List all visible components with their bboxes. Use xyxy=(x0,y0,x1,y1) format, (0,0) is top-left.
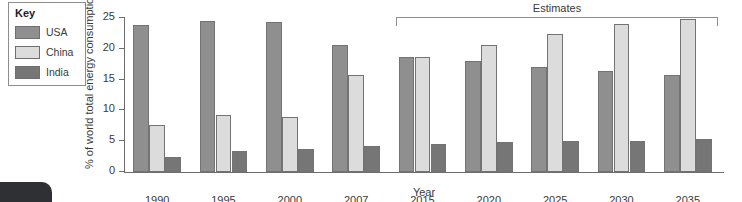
bar-usa-2025 xyxy=(531,67,547,172)
y-tick-label: 15 xyxy=(103,72,115,84)
bar-usa-2030 xyxy=(598,71,614,172)
y-tick-label: 0 xyxy=(109,164,115,176)
bar-group xyxy=(133,18,181,172)
legend-label-china: China xyxy=(46,46,73,58)
bar-usa-2015 xyxy=(399,57,415,172)
y-tick-label: 25 xyxy=(103,10,115,22)
bar-group xyxy=(465,18,513,172)
scan-artifact xyxy=(0,182,52,202)
bar-usa-1995 xyxy=(200,21,216,172)
plot-area: 0510152025199019952000200720152020202520… xyxy=(124,18,721,172)
y-tick-label: 20 xyxy=(103,41,115,53)
x-axis-title: Year xyxy=(124,186,724,198)
legend-label-india: India xyxy=(46,66,69,78)
bar-india-2000 xyxy=(298,149,314,172)
y-tick: 5 xyxy=(119,140,124,141)
bar-group xyxy=(399,18,447,172)
bar-group xyxy=(266,18,314,172)
y-tick-label: 5 xyxy=(109,133,115,145)
bar-india-2015 xyxy=(431,144,447,172)
y-tick-label: 10 xyxy=(103,102,115,114)
bar-usa-2035 xyxy=(664,75,680,172)
bar-china-1990 xyxy=(149,125,165,172)
bar-india-2035 xyxy=(696,139,712,172)
estimates-label: Estimates xyxy=(396,2,718,14)
y-tick: 10 xyxy=(119,109,124,110)
y-tick: 20 xyxy=(119,48,124,49)
legend-item-china: China xyxy=(15,42,80,62)
bar-india-2020 xyxy=(497,142,513,172)
bar-china-2035 xyxy=(680,19,696,172)
legend-swatch-usa xyxy=(15,26,40,39)
bar-india-2025 xyxy=(563,141,579,172)
bar-china-1995 xyxy=(216,115,232,172)
bar-china-2015 xyxy=(415,57,431,172)
bar-india-1990 xyxy=(165,157,181,172)
legend-item-usa: USA xyxy=(15,22,80,42)
legend-title: Key xyxy=(15,7,80,20)
bar-india-1995 xyxy=(232,151,248,172)
legend-swatch-china xyxy=(15,46,40,59)
bar-group xyxy=(598,18,646,172)
x-axis-line xyxy=(124,172,724,173)
y-tick: 25 xyxy=(119,17,124,18)
bar-usa-2007 xyxy=(332,45,348,173)
bar-group xyxy=(200,18,248,172)
bar-china-2007 xyxy=(348,75,364,172)
bar-group xyxy=(531,18,579,172)
bar-usa-2000 xyxy=(266,22,282,172)
bar-usa-2020 xyxy=(465,61,481,172)
bar-china-2030 xyxy=(614,24,630,172)
legend-swatch-india xyxy=(15,66,40,79)
legend-item-india: India xyxy=(15,62,80,82)
y-tick: 15 xyxy=(119,79,124,80)
bar-usa-1990 xyxy=(133,25,149,172)
legend-label-usa: USA xyxy=(46,26,68,38)
bar-india-2030 xyxy=(630,141,646,172)
bar-india-2007 xyxy=(364,146,380,172)
bar-group xyxy=(332,18,380,172)
y-axis-title: % of world total energy consumption xyxy=(74,16,104,172)
bar-group xyxy=(664,18,712,172)
bar-china-2000 xyxy=(282,117,298,172)
bar-china-2025 xyxy=(547,34,563,172)
y-tick: 0 xyxy=(119,171,124,172)
estimates-bracket xyxy=(396,17,718,26)
bar-china-2020 xyxy=(481,45,497,173)
bar-chart: Key USA China India % of world total ene… xyxy=(0,0,742,202)
y-axis-title-text: % of world total energy consumption xyxy=(83,19,96,169)
